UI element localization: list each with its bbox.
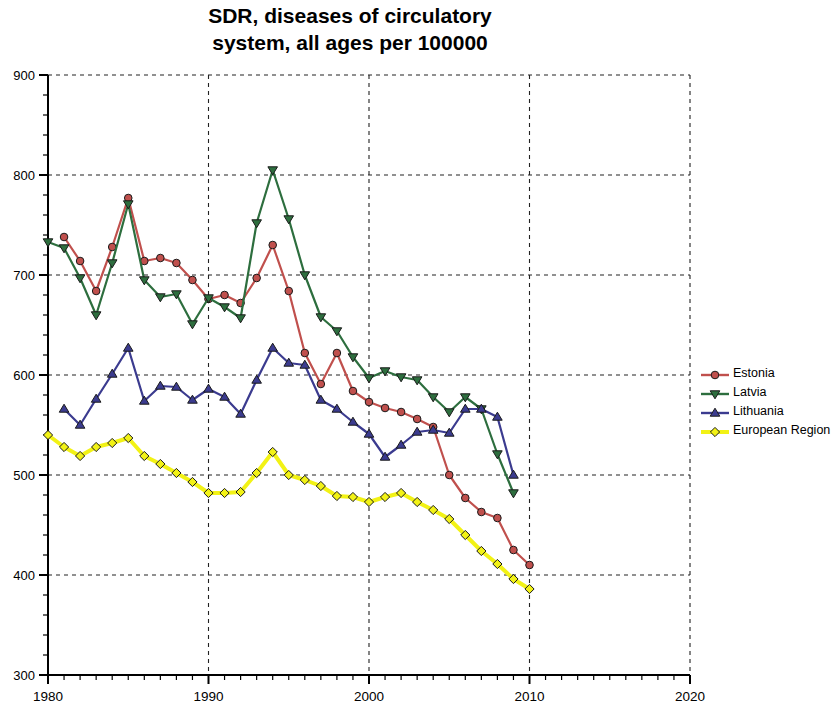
chart-figure: SDR, diseases of circulatory system, all… [0, 0, 840, 705]
data-point-circle [189, 276, 197, 284]
data-point-triangle-down [284, 216, 294, 224]
data-point-circle [333, 349, 341, 357]
data-point-triangle-up [509, 470, 519, 478]
x-tick-label: 1980 [33, 689, 63, 704]
data-point-diamond [380, 492, 389, 501]
data-point-circle [510, 546, 518, 554]
x-tick-label: 2020 [675, 689, 705, 704]
legend-item-estonia[interactable]: Estonia [700, 364, 840, 383]
legend-label: Lithuania [730, 402, 784, 421]
legend-label: Estonia [730, 364, 775, 383]
data-point-circle [711, 371, 719, 379]
series-line [48, 170, 513, 493]
legend-item-european-region[interactable]: European Region [700, 421, 840, 440]
data-point-triangle-down [91, 312, 101, 320]
data-point-circle [269, 241, 277, 249]
x-tick-label: 2000 [354, 689, 384, 704]
data-point-circle [462, 494, 470, 502]
data-point-circle [301, 349, 309, 357]
data-point-circle [526, 561, 534, 569]
x-tick-label: 2010 [514, 689, 544, 704]
data-point-circle [253, 274, 261, 282]
y-tick-label: 500 [13, 468, 35, 483]
data-point-triangle-down [188, 321, 198, 329]
data-point-diamond [108, 438, 117, 447]
data-point-diamond [710, 427, 719, 436]
legend-swatch-circle-icon [700, 367, 730, 381]
y-tick-label: 300 [13, 668, 35, 683]
data-point-triangle-down [252, 220, 262, 228]
data-point-circle [285, 287, 293, 295]
y-tick-label: 800 [13, 168, 35, 183]
series-line [64, 198, 529, 565]
x-axis-tick-labels: 19801990200020102020 [33, 689, 705, 704]
data-point-circle [92, 287, 100, 295]
chart-legend: EstoniaLatviaLithuaniaEuropean Region [700, 364, 840, 440]
data-point-triangle-down [493, 451, 503, 459]
data-point-triangle-up [316, 395, 326, 403]
data-point-circle [381, 404, 389, 412]
legend-label: Latvia [730, 383, 766, 402]
data-point-triangle-up [59, 404, 69, 412]
x-axis-ticks [48, 675, 690, 684]
data-point-circle [365, 398, 373, 406]
x-tick-label: 1990 [193, 689, 223, 704]
legend-label: European Region [730, 421, 830, 440]
data-point-circle [494, 514, 502, 522]
data-point-circle [157, 254, 165, 262]
series-latvia [43, 167, 518, 498]
data-point-circle [317, 380, 325, 388]
y-tick-label: 700 [13, 268, 35, 283]
y-tick-label: 400 [13, 568, 35, 583]
y-tick-label: 900 [13, 68, 35, 83]
data-point-circle [221, 291, 229, 299]
data-point-triangle-down [59, 245, 69, 253]
data-point-triangle-up [204, 384, 214, 392]
legend-swatch-diamond-icon [700, 424, 730, 438]
legend-item-lithuania[interactable]: Lithuania [700, 402, 840, 421]
series-european-region [43, 430, 534, 593]
data-point-diamond [348, 492, 357, 501]
data-point-circle [173, 259, 181, 267]
data-point-circle [60, 233, 68, 241]
data-point-circle [445, 471, 453, 479]
y-axis-tick-labels: 300400500600700800900 [13, 68, 35, 683]
data-point-triangle-up [123, 343, 133, 351]
y-axis-ticks [39, 75, 48, 675]
legend-swatch-triangle-down-icon [700, 386, 730, 400]
chart-plot-area: 3004005006007008009001980199020002010202… [0, 0, 840, 705]
data-point-triangle-down [236, 315, 246, 323]
data-point-circle [397, 408, 405, 416]
data-point-triangle-down [156, 294, 166, 302]
data-point-circle [478, 508, 486, 516]
legend-swatch-triangle-up-icon [700, 405, 730, 419]
data-point-triangle-down [107, 260, 117, 268]
data-point-diamond [220, 488, 229, 497]
data-point-triangle-down [268, 167, 278, 175]
data-point-circle [76, 257, 84, 265]
data-point-triangle-up [252, 375, 262, 383]
data-point-triangle-down [509, 490, 519, 498]
data-point-triangle-down [75, 275, 85, 283]
data-point-triangle-down [444, 409, 454, 417]
data-point-triangle-down [300, 272, 310, 280]
data-point-triangle-down [364, 375, 374, 383]
data-point-diamond [364, 497, 373, 506]
data-point-triangle-up [268, 343, 278, 351]
data-point-circle [413, 415, 421, 423]
series-line [48, 435, 530, 589]
data-point-circle [349, 387, 357, 395]
legend-item-latvia[interactable]: Latvia [700, 383, 840, 402]
y-tick-label: 600 [13, 368, 35, 383]
